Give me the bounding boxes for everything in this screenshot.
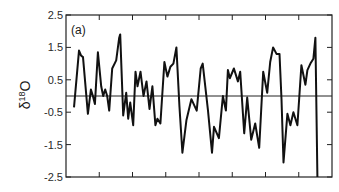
- y-tick-label: -1.5: [44, 139, 63, 151]
- d18o-series-line: [74, 34, 317, 177]
- y-tick-label: -0.5: [44, 106, 63, 118]
- y-axis-title-suffix: O: [17, 81, 33, 92]
- y-axis-title-superscript: 18: [17, 92, 27, 102]
- d18o-line-chart: 2.51.50.5-0.5-1.5-2.5 (a) δ18O: [0, 0, 339, 192]
- panel-label: (a): [71, 23, 86, 37]
- y-axis-title: δ18O: [17, 81, 33, 110]
- y-tick-label: 2.5: [48, 9, 63, 21]
- y-tick-label: 1.5: [48, 41, 63, 53]
- y-axis-title-prefix: δ: [17, 101, 33, 109]
- y-tick-label: -2.5: [44, 171, 63, 183]
- y-tick-label: 0.5: [48, 74, 63, 86]
